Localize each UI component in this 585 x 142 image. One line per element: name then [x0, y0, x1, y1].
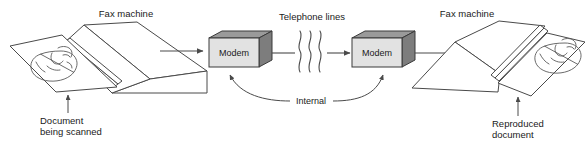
telephone-lines-label: Telephone lines	[279, 11, 345, 22]
fax-machine-left-label: Fax machine	[99, 8, 153, 19]
reproduced-document-label-line1: Reproduced	[492, 118, 544, 129]
modem-right-side-face	[402, 31, 415, 67]
modem-right: Modem	[352, 31, 415, 67]
modem-left-side-face	[259, 31, 272, 67]
internal-arc-left arrow-up-icon	[230, 75, 290, 101]
modem-left: Modem	[209, 31, 272, 67]
fax-machine-right-label: Fax machine	[440, 8, 494, 19]
telephone-line-squiggle-icon	[299, 31, 321, 72]
fax-machine-right	[412, 21, 585, 116]
fax-diagram-container: Fax machine Document being scanned Modem…	[0, 0, 585, 142]
fax-transmission-diagram: Fax machine Document being scanned Modem…	[0, 0, 585, 142]
document-scanned-label-line1: Document	[40, 115, 84, 126]
internal-connection-arc: Internal	[230, 75, 383, 106]
internal-arc-right arrow-up-icon	[333, 75, 383, 101]
internal-label: Internal	[296, 96, 326, 106]
reproduced-document-label-line2: document	[492, 129, 534, 140]
modem-left-label: Modem	[219, 48, 249, 58]
fax-machine-left	[10, 22, 207, 113]
modem-right-label: Modem	[362, 48, 392, 58]
document-scanned-label-line2: being scanned	[40, 126, 102, 137]
